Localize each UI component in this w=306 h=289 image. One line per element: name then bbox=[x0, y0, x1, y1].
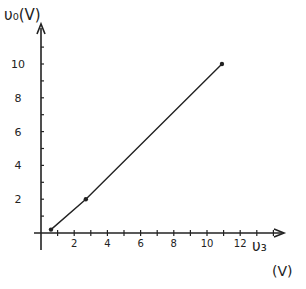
series-line bbox=[51, 64, 222, 230]
x-axis-label: υ₃ bbox=[252, 237, 267, 255]
transfer-characteristic-chart: 24681012246810 υ₀(V) υ₃ (V) bbox=[0, 0, 306, 289]
x-tick-label: 12 bbox=[234, 238, 247, 249]
y-axis-label: υ₀(V) bbox=[4, 6, 41, 24]
x-tick-label: 10 bbox=[201, 238, 214, 249]
axes bbox=[34, 24, 284, 250]
data-point-marker-icon bbox=[220, 62, 224, 66]
tick-labels: 24681012246810 bbox=[11, 58, 247, 249]
y-tick-label: 8 bbox=[15, 92, 22, 105]
data-point-marker-icon bbox=[84, 197, 88, 201]
y-tick-label: 2 bbox=[15, 193, 22, 206]
data-point-marker-icon bbox=[49, 227, 53, 231]
y-tick-label: 6 bbox=[15, 126, 22, 139]
y-tick-label: 10 bbox=[11, 58, 25, 71]
data-series bbox=[49, 62, 224, 232]
y-tick-label: 4 bbox=[15, 159, 22, 172]
x-tick-label: 6 bbox=[137, 238, 143, 249]
x-tick-label: 4 bbox=[104, 238, 110, 249]
x-tick-label: 8 bbox=[171, 238, 177, 249]
x-axis-unit: (V) bbox=[272, 263, 293, 279]
x-tick-label: 2 bbox=[71, 238, 77, 249]
